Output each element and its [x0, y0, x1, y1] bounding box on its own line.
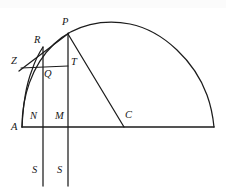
point-label-C: C	[125, 110, 132, 121]
point-label-S-left: S	[32, 165, 37, 176]
point-label-N: N	[30, 111, 37, 122]
point-label-M: M	[55, 111, 64, 122]
point-label-Z: Z	[11, 56, 17, 67]
point-label-T: T	[71, 57, 77, 68]
point-label-R: R	[34, 35, 40, 46]
point-label-A: A	[11, 122, 17, 133]
point-label-P: P	[62, 17, 68, 28]
chord-p-to-c	[68, 34, 124, 127]
point-label-S-right: S	[57, 165, 62, 176]
point-label-Q: Q	[44, 69, 52, 80]
geometric-figure: P R Z T Q N M C A S S	[0, 0, 226, 193]
tangent-z-to-p	[19, 33, 69, 71]
